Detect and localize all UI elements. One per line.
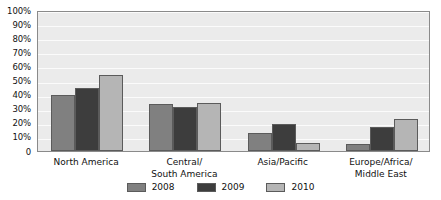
chart-legend: 200820092010 (0, 182, 441, 192)
bar-2009[interactable] (272, 124, 296, 151)
legend-label: 2010 (291, 182, 314, 192)
bar-2010[interactable] (99, 75, 123, 151)
bar-group (235, 12, 333, 151)
legend-swatch-2008 (127, 183, 146, 192)
bar-2009[interactable] (75, 88, 99, 151)
bar-2010[interactable] (394, 119, 418, 151)
y-axis: 100%90%80%70%60%50%40%30%20%10%0 (0, 6, 34, 154)
x-axis-label: Europe/Africa/Middle East (332, 157, 430, 180)
y-axis-tick-label: 50% (0, 77, 31, 86)
y-axis-tick-label: 70% (0, 49, 31, 58)
y-axis-tick-label: 20% (0, 119, 31, 128)
bar-group (333, 12, 431, 151)
x-axis-label: Central/South America (135, 157, 233, 180)
x-axis-label-line: Asia/Pacific (234, 157, 332, 169)
bar-2008[interactable] (248, 133, 272, 151)
bar-2009[interactable] (370, 127, 394, 151)
y-axis-tick-label: 40% (0, 91, 31, 100)
legend-swatch-2009 (197, 183, 216, 192)
y-axis-tick-label: 10% (0, 133, 31, 142)
bar-group (136, 12, 234, 151)
y-axis-tick-label: 90% (0, 21, 31, 30)
bar-group (38, 12, 136, 151)
plot-area (37, 11, 430, 152)
x-axis-label: North America (37, 157, 135, 169)
bars-layer (38, 12, 429, 151)
x-axis-label-line: Central/ (135, 157, 233, 169)
x-axis-label-line: Middle East (332, 169, 430, 181)
bar-2010[interactable] (197, 103, 221, 151)
legend-item-2010[interactable]: 2010 (266, 182, 314, 192)
y-axis-tick-label: 30% (0, 105, 31, 114)
x-axis-label-line: South America (135, 169, 233, 181)
x-axis-label-line: North America (37, 157, 135, 169)
bar-2009[interactable] (173, 107, 197, 151)
y-axis-tick-label: 100% (0, 7, 31, 16)
y-axis-tick-label: 80% (0, 35, 31, 44)
legend-label: 2009 (222, 182, 245, 192)
bar-chart: 100%90%80%70%60%50%40%30%20%10%0 North A… (0, 0, 441, 200)
bar-2008[interactable] (51, 95, 75, 151)
y-axis-tick-label: 60% (0, 63, 31, 72)
bar-2010[interactable] (296, 143, 320, 151)
legend-swatch-2010 (266, 183, 285, 192)
x-axis-label: Asia/Pacific (234, 157, 332, 169)
legend-item-2009[interactable]: 2009 (197, 182, 245, 192)
x-axis-label-line: Europe/Africa/ (332, 157, 430, 169)
legend-label: 2008 (152, 182, 175, 192)
bar-2008[interactable] (149, 104, 173, 151)
bar-2008[interactable] (346, 144, 370, 151)
y-axis-tick-label: 0 (0, 148, 31, 157)
legend-item-2008[interactable]: 2008 (127, 182, 175, 192)
